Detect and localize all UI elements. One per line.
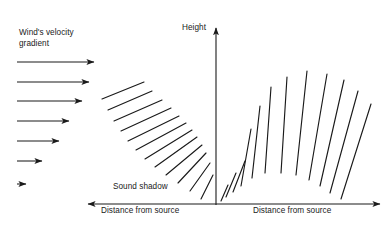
shadow-ray-8	[155, 137, 197, 167]
refraction-ray-9	[309, 74, 327, 180]
sound-shadow-label: Sound shadow	[113, 182, 168, 193]
refraction-ray-5	[252, 106, 260, 178]
refraction-ray-1	[221, 185, 228, 201]
downwind-refraction-rays	[221, 71, 371, 201]
shadow-ray-12	[201, 175, 213, 199]
refraction-ray-4	[241, 129, 251, 186]
shadow-ray-6	[136, 123, 186, 150]
refraction-ray-7	[281, 77, 287, 173]
shadow-ray-1	[102, 82, 144, 99]
shadow-ray-3	[114, 100, 162, 121]
shadow-ray-10	[178, 153, 206, 183]
refraction-ray-11	[330, 91, 358, 193]
shadow-ray-9	[166, 145, 202, 175]
refraction-ray-8	[296, 71, 307, 175]
distance-axis-label-left: Distance from source	[101, 206, 179, 217]
wind-gradient-label: Wind's velocity gradient	[19, 28, 74, 49]
distance-axis-label-right: Distance from source	[253, 206, 331, 217]
shadow-ray-4	[121, 108, 171, 131]
refraction-ray-6	[265, 87, 271, 173]
height-axis-label: Height	[182, 23, 206, 34]
refraction-ray-12	[341, 104, 371, 199]
shadow-ray-5	[128, 116, 179, 141]
shadow-ray-7	[145, 130, 192, 159]
wind-velocity-arrows	[17, 62, 94, 184]
wind-refraction-diagram: Wind's velocity gradient Height Sound sh…	[0, 0, 388, 231]
